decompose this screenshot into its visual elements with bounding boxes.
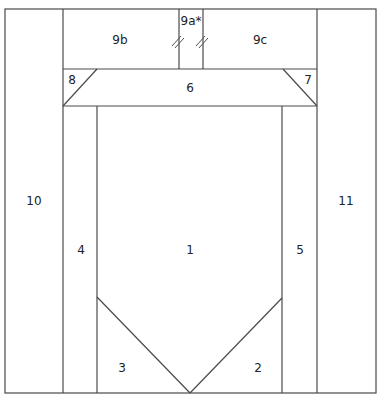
piecing-diagram: 1 2 3 4 5 6 7 8 9a* 9b 9c 10 11 (0, 0, 377, 400)
label-piece-7: 7 (304, 73, 312, 87)
label-piece-9b: 9b (112, 33, 127, 47)
label-piece-9c: 9c (253, 33, 267, 47)
label-piece-2: 2 (254, 361, 262, 375)
label-piece-9a: 9a* (181, 14, 202, 28)
outer-border (5, 9, 376, 393)
hash-mark-left (172, 36, 184, 48)
hash-mark-right (196, 36, 208, 48)
diagonal-piece-7 (283, 69, 317, 106)
label-piece-3: 3 (118, 361, 126, 375)
label-piece-8: 8 (68, 73, 76, 87)
label-piece-6: 6 (186, 81, 194, 95)
label-piece-1: 1 (186, 243, 194, 257)
label-piece-5: 5 (296, 243, 304, 257)
label-piece-10: 10 (26, 194, 41, 208)
diagonal-piece-2 (190, 298, 282, 393)
label-piece-11: 11 (338, 194, 353, 208)
diagonal-piece-3 (97, 297, 190, 393)
label-piece-4: 4 (77, 243, 85, 257)
